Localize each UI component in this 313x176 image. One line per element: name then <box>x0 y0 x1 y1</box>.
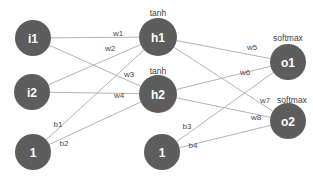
edge-w4 <box>50 92 139 93</box>
edge-label-b3: b3 <box>183 122 192 131</box>
node-b2[interactable]: 1 <box>144 134 180 170</box>
activation-label-o1: softmax <box>273 33 304 43</box>
node-label-h1: h1 <box>151 31 165 45</box>
node-label-i2: i2 <box>27 86 37 100</box>
edge-label-w1: w1 <box>112 29 124 38</box>
neural-network-diagram: i1i21h1h21o1o2 w1w2w3w4w5w6w7w8b1b2b3b4 … <box>0 0 313 176</box>
network-canvas: i1i21h1h21o1o2 w1w2w3w4w5w6w7w8b1b2b3b4 … <box>0 0 313 176</box>
edge-w1 <box>51 37 139 38</box>
node-i2[interactable]: i2 <box>14 74 50 110</box>
edge-label-w2: w2 <box>104 44 116 53</box>
node-b1[interactable]: 1 <box>15 134 51 170</box>
node-label-o1: o1 <box>281 56 295 70</box>
edge-label-w4: w4 <box>113 91 125 100</box>
node-o1[interactable]: o1 <box>270 44 306 80</box>
edge-b3 <box>177 72 274 141</box>
activation-label-h2: tanh <box>150 66 167 76</box>
edge-w7 <box>174 47 273 111</box>
node-h1[interactable]: h1 <box>139 18 177 56</box>
edge-w6 <box>176 66 270 89</box>
node-label-o2: o2 <box>281 115 295 129</box>
activation-label-o2: softmax <box>277 95 308 105</box>
nodes-group: i1i21h1h21o1o2 <box>14 18 306 170</box>
edge-label-w5: w5 <box>246 43 258 52</box>
node-label-b1: 1 <box>30 146 37 160</box>
activation-label-h1: tanh <box>150 8 167 18</box>
edge-label-w3: w3 <box>123 70 135 79</box>
edge-label-w8: w8 <box>250 113 262 122</box>
edge-label-b2: b2 <box>60 139 69 148</box>
edge-label-b4: b4 <box>189 141 198 150</box>
node-o2[interactable]: o2 <box>270 103 306 139</box>
edge-label-w6: w6 <box>239 68 251 77</box>
edge-label-w7: w7 <box>259 96 271 105</box>
node-label-i1: i1 <box>28 32 38 46</box>
node-label-h2: h2 <box>151 88 165 102</box>
node-i1[interactable]: i1 <box>15 20 51 56</box>
node-label-b2: 1 <box>159 146 166 160</box>
node-h2[interactable]: h2 <box>139 75 177 113</box>
edge-label-b1: b1 <box>54 120 63 129</box>
